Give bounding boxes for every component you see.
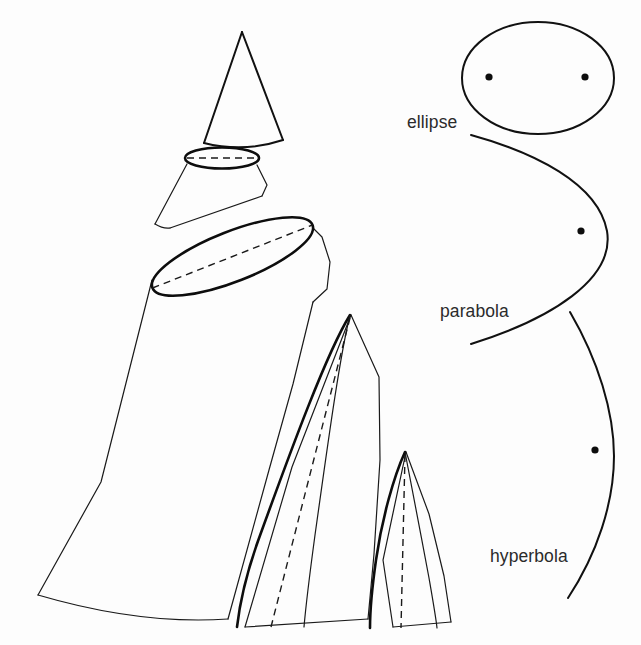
large-cone-base-arc [38,595,228,620]
hyperbola-cut-inner-edge [405,452,437,628]
hyperbola-curve [568,312,614,598]
ellipse-focus-right [581,73,588,80]
conic-sections-figure: ellipse parabola hyperbola [0,0,641,645]
frustum-lower-right-edge [170,196,262,228]
small-cone-right-edge [242,32,283,140]
hyperbola-focus [591,446,598,453]
large-cone-left-edge [38,280,152,595]
parabola-cone-right-edge [351,315,380,619]
conic-curve-group: ellipse parabola hyperbola [407,22,614,598]
large-cone-right-shoulder [313,228,330,302]
hyperbola-cone-right-edge [406,452,451,622]
small-cone-top [204,32,283,147]
ellipse-label: ellipse [407,112,457,132]
frustum-left-edge [155,164,187,224]
large-cone-elliptical-section [38,202,330,620]
ellipse-curve [462,22,614,134]
hyperbola-cut-axis-dashed [401,455,405,628]
cone-hyperbolic-section [370,452,451,628]
parabola-cone-base [245,619,368,627]
large-cone-right-lower-edge [228,302,313,619]
small-cone-left-edge [204,32,242,143]
small-cone-base-arc [204,140,283,147]
frustum-base-arc [155,224,170,228]
ellipse-focus-left [485,73,492,80]
hyperbola-curve-group [568,312,614,598]
ellipse-curve-group [462,22,614,134]
cone-group [38,32,451,628]
frustum-circular-section [155,148,267,229]
hyperbola-label: hyperbola [490,546,568,566]
figure-canvas: ellipse parabola hyperbola [0,0,641,645]
parabola-focus [577,227,584,234]
cone-parabolic-section [237,315,380,627]
parabola-label: parabola [440,301,509,321]
frustum-right-edge [257,165,267,196]
